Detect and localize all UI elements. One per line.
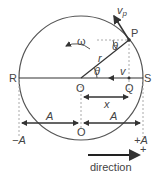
vp-arrow [114,16,129,40]
label-o: O [76,82,85,94]
label-s: S [144,72,151,84]
label-a-left: A [45,110,53,122]
label-neg-a: −A [12,134,26,146]
label-r-radius: r [98,52,103,64]
label-vp: vp [117,4,128,18]
point-q [128,77,131,80]
label-r: R [9,72,17,84]
label-v: v [120,65,127,77]
label-theta-center: θ [94,65,100,77]
label-a-right: A [109,110,117,122]
shm-circle-diagram: R S P Q O O vp ω θ θ r v x A A −A +A + d… [0,0,154,180]
v-arrowhead [108,75,114,81]
label-direction: direction [90,161,132,173]
label-o-axis: O [77,126,86,138]
label-theta-top: θ [112,40,118,52]
label-p: P [131,27,138,39]
label-plus: + [140,143,146,155]
label-x: x [103,98,110,110]
label-q: Q [125,82,134,94]
label-omega: ω [77,35,86,47]
